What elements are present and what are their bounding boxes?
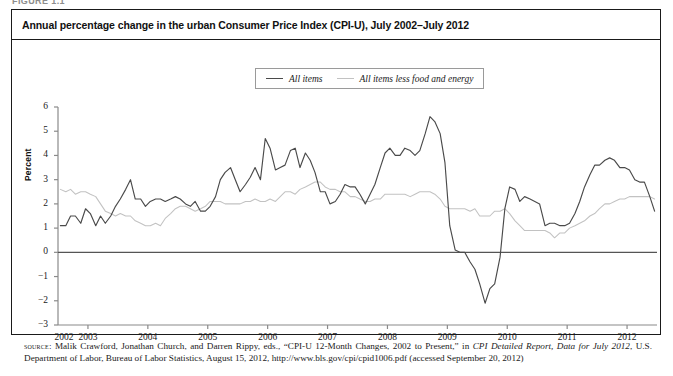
source-text-1: : Malik Crawford, Jonathan Church, and D… [49,341,473,351]
figure-frame: Annual percentage change in the urban Co… [11,9,661,335]
y-tick-label: −1 [32,271,48,281]
y-tick-label: 5 [32,125,48,135]
line-chart-svg [12,10,660,334]
source-citation-italic: CPI Detailed Report, Data for July 2012 [473,341,630,351]
chart-plot-area: Percent 6543210−1−2−32002200320042005200… [12,10,660,334]
source-label: source [24,341,49,351]
source-note: source: Malik Crawford, Jonathan Church,… [24,340,652,365]
y-tick-label: −2 [32,295,48,305]
y-tick-label: 1 [32,222,48,232]
figure-number-header: FIGURE 1.1 [12,0,65,5]
y-tick-label: −3 [32,319,48,329]
y-tick-label: 3 [32,174,48,184]
y-tick-label: 4 [32,149,48,159]
y-tick-label: 6 [32,101,48,111]
y-tick-label: 2 [32,198,48,208]
y-tick-label: 0 [32,246,48,256]
figure-page: FIGURE 1.1 Annual percentage change in t… [0,0,673,376]
